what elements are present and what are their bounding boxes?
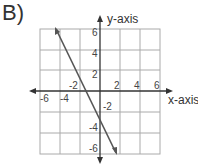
x-tick: -6 [40, 93, 49, 104]
y-tick: 4 [92, 48, 98, 59]
x-tick: 4 [134, 80, 140, 91]
y-axis-label: y-axis [107, 12, 138, 26]
axes [32, 18, 170, 162]
y-tick: 2 [92, 69, 98, 80]
y-tick: 6 [92, 27, 98, 38]
y-tick: -4 [89, 122, 98, 133]
x-tick: -2 [69, 80, 78, 91]
x-axis-label: x-axis [168, 93, 198, 107]
y-axis-arrow-down [97, 157, 103, 164]
y-tick: -6 [89, 143, 98, 154]
x-tick: 6 [154, 80, 160, 91]
x-tick: -4 [60, 93, 69, 104]
x-axis-arrow-left [29, 88, 36, 94]
y-tick: -2 [103, 101, 112, 112]
x-tick: 2 [114, 80, 120, 91]
coordinate-plane: y-axis x-axis -6 -4 -2 2 4 6 6 4 2 -2 -4… [0, 0, 198, 164]
y-axis-arrow-up [97, 15, 103, 22]
